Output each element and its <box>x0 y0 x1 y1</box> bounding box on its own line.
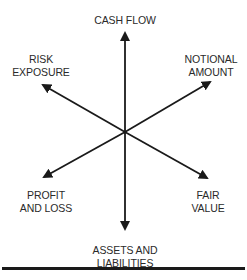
label-line: AMOUNT <box>176 66 246 79</box>
label-line: CASH FLOW <box>85 14 165 27</box>
label-line: ASSETS AND <box>80 244 170 257</box>
label-line: FAIR <box>186 189 230 202</box>
center-node <box>123 130 126 133</box>
bottom-rule-divider <box>2 267 245 270</box>
arrow-notional-amount <box>125 82 210 132</box>
label-line: RISK <box>9 53 73 66</box>
label-line: AND LOSS <box>14 202 78 215</box>
arrow-profit-and-loss <box>44 132 125 177</box>
label-line: PROFIT <box>14 189 78 202</box>
label-assets-and-liabilities: ASSETS AND LIABILITIES <box>80 244 170 269</box>
label-line: NOTIONAL <box>176 53 246 66</box>
label-line: VALUE <box>186 202 230 215</box>
arrow-fair-value <box>125 132 207 178</box>
label-notional-amount: NOTIONAL AMOUNT <box>176 53 246 78</box>
radial-arrow-diagram <box>0 0 247 280</box>
label-risk-exposure: RISK EXPOSURE <box>9 53 73 78</box>
label-line: EXPOSURE <box>9 66 73 79</box>
arrow-risk-exposure <box>43 85 125 132</box>
label-fair-value: FAIR VALUE <box>186 189 230 214</box>
label-cash-flow: CASH FLOW <box>85 14 165 27</box>
label-profit-and-loss: PROFIT AND LOSS <box>14 189 78 214</box>
